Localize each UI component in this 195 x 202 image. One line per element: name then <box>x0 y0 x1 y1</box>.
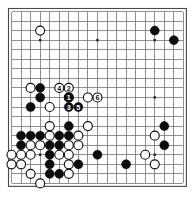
white-stone[interactable] <box>141 150 150 159</box>
black-stone[interactable] <box>55 141 64 150</box>
star-point <box>154 96 157 99</box>
black-stone[interactable] <box>169 36 178 45</box>
move-number-label: 6 <box>95 93 99 102</box>
star-point <box>39 39 42 42</box>
move-number-label: 5 <box>76 103 80 112</box>
white-stone[interactable] <box>26 141 35 150</box>
black-stone[interactable] <box>17 141 26 150</box>
black-stone[interactable] <box>36 83 45 92</box>
black-stone[interactable] <box>17 131 26 140</box>
star-point <box>154 39 157 42</box>
black-stone[interactable] <box>45 160 54 169</box>
star-point <box>96 39 99 42</box>
move-number-label: 4 <box>57 84 61 93</box>
white-stone[interactable] <box>83 122 92 131</box>
white-stone[interactable] <box>64 169 73 178</box>
white-stone[interactable] <box>26 83 35 92</box>
black-stone[interactable] <box>26 131 35 140</box>
black-stone[interactable] <box>64 131 73 140</box>
white-stone[interactable] <box>74 141 83 150</box>
black-stone[interactable] <box>160 141 169 150</box>
black-stone[interactable] <box>64 122 73 131</box>
white-stone[interactable] <box>36 141 45 150</box>
white-stone[interactable] <box>45 103 54 112</box>
white-stone[interactable] <box>17 160 26 169</box>
move-number-label: 3 <box>67 103 71 112</box>
white-stone[interactable] <box>45 131 54 140</box>
white-stone[interactable] <box>45 122 54 131</box>
white-stone[interactable] <box>74 131 83 140</box>
black-stone[interactable] <box>122 160 131 169</box>
black-stone[interactable] <box>26 103 35 112</box>
white-stone[interactable] <box>64 150 73 159</box>
black-stone[interactable] <box>55 131 64 140</box>
black-stone[interactable] <box>93 150 102 159</box>
white-stone[interactable] <box>55 150 64 159</box>
move-number-label: 2 <box>67 84 71 93</box>
white-stone[interactable] <box>7 150 16 159</box>
black-stone[interactable] <box>45 150 54 159</box>
black-stone[interactable] <box>36 93 45 102</box>
black-stone[interactable] <box>160 122 169 131</box>
black-stone[interactable] <box>150 26 159 35</box>
white-stone[interactable] <box>64 160 73 169</box>
black-stone[interactable] <box>45 141 54 150</box>
white-stone[interactable] <box>26 150 35 159</box>
white-stone[interactable] <box>36 26 45 35</box>
black-stone[interactable] <box>36 131 45 140</box>
star-point <box>39 154 42 157</box>
black-stone[interactable] <box>74 160 83 169</box>
white-stone[interactable] <box>150 131 159 140</box>
white-stone[interactable] <box>64 141 73 150</box>
white-stone[interactable] <box>150 160 159 169</box>
black-stone[interactable] <box>45 169 54 178</box>
go-board[interactable]: 421635 <box>0 0 195 202</box>
go-diagram-root: 421635 <box>0 0 195 202</box>
white-stone[interactable] <box>26 169 35 178</box>
white-stone[interactable] <box>83 93 92 102</box>
white-stone[interactable] <box>36 179 45 188</box>
white-stone[interactable] <box>7 160 16 169</box>
white-stone[interactable] <box>17 150 26 159</box>
move-number-label: 1 <box>67 93 71 102</box>
star-point <box>154 154 157 157</box>
black-stone[interactable] <box>55 169 64 178</box>
